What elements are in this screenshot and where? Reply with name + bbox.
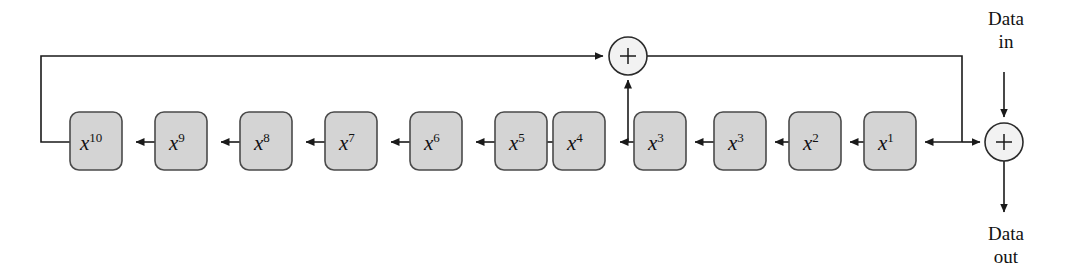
svg-text:out: out (994, 246, 1019, 267)
top-adder[interactable] (609, 37, 647, 75)
register-box[interactable]: x8 (240, 112, 292, 170)
register-box[interactable]: x4 (553, 112, 605, 170)
register-box[interactable]: x5 (495, 112, 547, 170)
register-box[interactable]: x2 (789, 112, 841, 170)
diagram-canvas: x10 x9 x8 x7 x6 x5 (0, 0, 1070, 277)
register-box[interactable]: x7 (325, 112, 377, 170)
shift-register-diagram: x10 x9 x8 x7 x6 x5 (0, 0, 1070, 277)
svg-text:Data: Data (988, 8, 1024, 29)
data-out-label: Data out (988, 223, 1024, 267)
svg-text:Data: Data (988, 223, 1024, 244)
data-in-label: Data in (988, 8, 1024, 52)
register-box[interactable]: x10 (70, 112, 122, 170)
register-box[interactable]: x1 (864, 112, 916, 170)
register-box[interactable]: x6 (410, 112, 462, 170)
register-box[interactable]: x3 (634, 112, 686, 170)
register-box[interactable]: x9 (155, 112, 207, 170)
input-adder[interactable] (985, 123, 1023, 161)
register-box[interactable]: x3 (714, 112, 766, 170)
register-boxes: x10 x9 x8 x7 x6 x5 (70, 112, 916, 170)
svg-text:in: in (999, 31, 1014, 52)
